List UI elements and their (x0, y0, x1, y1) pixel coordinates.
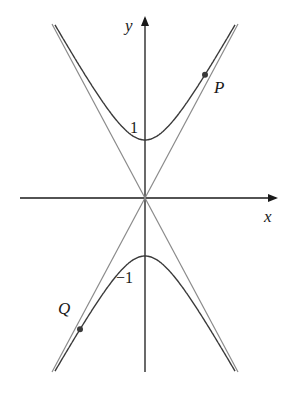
hyperbola-diagram: y x 1 −1 P Q (0, 0, 299, 395)
tick-label-1: 1 (130, 119, 138, 136)
point-q-label: Q (58, 299, 70, 318)
point-p (202, 72, 208, 78)
tick-label-neg1: −1 (116, 269, 133, 286)
x-axis-label: x (263, 207, 272, 226)
point-q (77, 326, 83, 332)
point-p-label: P (213, 78, 224, 97)
y-axis-label: y (123, 16, 133, 35)
